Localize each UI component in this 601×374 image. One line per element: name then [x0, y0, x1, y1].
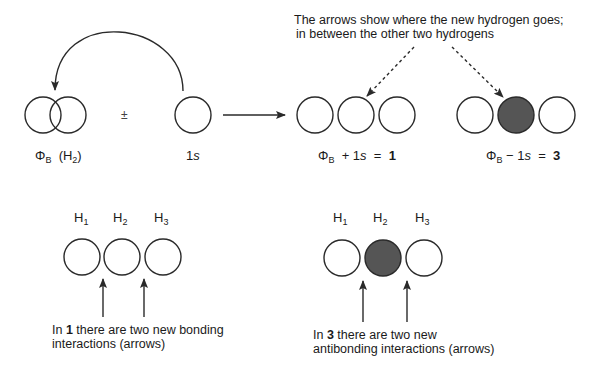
top-note: The arrows show where the new hydrogen g… — [294, 13, 564, 41]
combo3-label: ΦB − 1s = 3 — [486, 148, 560, 165]
combo3-orbital-2-filled — [498, 97, 534, 133]
antibonding-orbital-h2-filled — [365, 240, 401, 276]
antibonding-label-h1: H1 — [333, 210, 347, 227]
combo3-orbital-1 — [457, 97, 493, 133]
1s-label: 1s — [186, 148, 200, 163]
bonding-label-h3: H3 — [154, 210, 168, 227]
bonding-orbital-h2 — [104, 239, 140, 275]
phi-b-h2-label: ΦB (H2) — [35, 148, 82, 165]
combo1-orbital-2 — [338, 97, 374, 133]
bonding-caption: In 1 there are two new bonding interacti… — [52, 323, 224, 351]
antibonding-orbital-h1 — [324, 240, 360, 276]
diagram-canvas — [0, 0, 601, 374]
combo1-label: ΦB + 1s = 1 — [318, 148, 396, 165]
bonding-orbital-h3 — [145, 239, 181, 275]
curved-arrow — [55, 32, 183, 91]
dashed-arrow-left — [367, 47, 414, 96]
dashed-arrow-right — [452, 47, 503, 97]
bonding-label-h2: H2 — [113, 210, 127, 227]
combo3-orbital-3 — [539, 97, 575, 133]
bonding-orbital-h1 — [64, 239, 100, 275]
top-note-line1: The arrows show where the new hydrogen g… — [294, 13, 564, 27]
top-note-line2: in between the other two hydrogens — [294, 27, 564, 41]
antibonding-orbital-h3 — [406, 240, 442, 276]
combo1-orbital-1 — [297, 97, 333, 133]
h2-orbital-right — [50, 97, 86, 133]
antibonding-label-h3: H3 — [415, 210, 429, 227]
1s-orbital — [175, 97, 211, 133]
antibonding-label-h2: H2 — [373, 210, 387, 227]
bonding-label-h1: H1 — [74, 210, 88, 227]
antibonding-caption: In 3 there are two new antibonding inter… — [313, 328, 494, 356]
plus-minus-sign: ± — [121, 108, 128, 122]
combo1-orbital-3 — [379, 97, 415, 133]
